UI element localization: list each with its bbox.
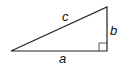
label-c: c [62, 9, 69, 24]
right-triangle-diagram: c b a [0, 0, 126, 65]
right-angle-marker [99, 43, 107, 51]
label-a: a [59, 51, 66, 65]
triangle-shape [11, 7, 107, 51]
label-b: b [110, 23, 117, 38]
